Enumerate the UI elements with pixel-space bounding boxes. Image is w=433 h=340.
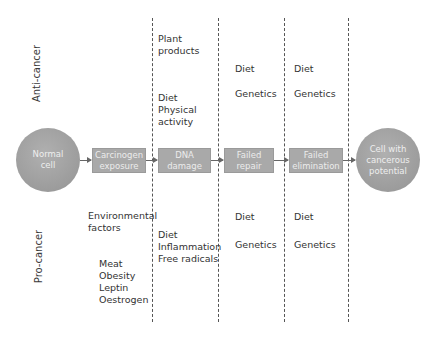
failed-repair-node: Failed repair	[224, 148, 274, 173]
normal-cell-node: Normal cell	[16, 128, 80, 192]
anti-dna-damage-bottom: Diet Physical activity	[158, 92, 197, 128]
carcinogen-exposure-node: Carcinogen exposure	[92, 148, 146, 173]
arrow-4	[274, 160, 288, 161]
cancerous-cell-node: Cell with cancerous potential	[356, 128, 420, 192]
separator-4	[348, 18, 349, 322]
dna-damage-node: DNA damage	[158, 148, 211, 173]
pro-failed-repair: Diet Genetics	[235, 211, 277, 251]
failed-elimination-node: Failed elimination	[289, 148, 343, 173]
separator-1	[152, 18, 153, 322]
anti-dna-damage-top: Plant products	[158, 33, 200, 57]
pro-cancer-label: Pro-cancer	[33, 230, 44, 283]
arrow-1	[80, 160, 91, 161]
separator-3	[284, 18, 285, 322]
anti-cancer-label: Anti-cancer	[31, 45, 42, 102]
arrow-3	[211, 160, 223, 161]
pro-carcinogen-top: Environmental factors	[88, 210, 157, 234]
separator-2	[218, 18, 219, 322]
pro-failed-elimination: Diet Genetics	[294, 211, 336, 251]
anti-failed-repair: Diet Genetics	[235, 63, 277, 100]
anti-failed-elimination: Diet Genetics	[294, 63, 336, 100]
arrow-2	[146, 160, 157, 161]
pro-dna-damage: Diet Inflammation Free radicals	[158, 229, 221, 265]
pro-carcinogen-bottom: Meat Obesity Leptin Oestrogen	[99, 258, 148, 306]
arrow-5	[343, 160, 355, 161]
